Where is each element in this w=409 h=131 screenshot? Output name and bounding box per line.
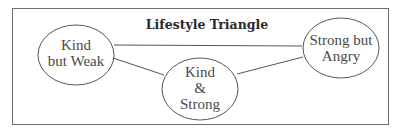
edge-kind-but-weak-to-kind-and-strong (113, 58, 164, 75)
node-kind-and-strong: Kind & Strong (162, 58, 238, 120)
node-kind-but-weak: Kind but Weak (38, 25, 114, 85)
node-strong-but-angry-line-1: Strong but (310, 32, 374, 48)
edge-kind-and-strong-to-strong-but-angry (237, 57, 303, 74)
node-kind-but-weak-line-2: but Weak (48, 53, 105, 69)
lifestyle-triangle-diagram: Lifestyle Triangle Kind but Weak Kind & … (0, 0, 409, 131)
node-kind-and-strong-line-2: & (194, 80, 206, 96)
edge-kind-but-weak-to-strong-but-angry (114, 45, 302, 46)
node-kind-and-strong-line-3: Strong (180, 96, 221, 112)
diagram-title: Lifestyle Triangle (146, 17, 268, 32)
node-kind-and-strong-line-1: Kind (185, 64, 216, 80)
node-strong-but-angry-line-2: Angry (322, 48, 361, 64)
node-kind-but-weak-line-1: Kind (61, 37, 92, 53)
node-strong-but-angry: Strong but Angry (303, 18, 379, 78)
